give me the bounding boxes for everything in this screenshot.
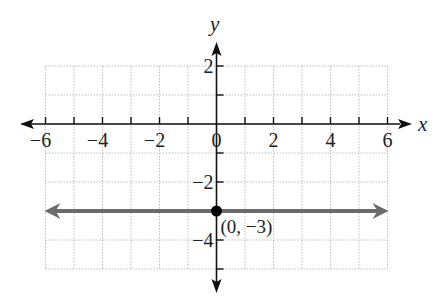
x-tick-label: 0 [212,129,222,151]
coordinate-plane: −6−4−202462−2−4 (0, −3) x y [0,0,444,303]
y-tick-label: −2 [192,171,213,193]
point-label: (0, −3) [221,216,273,238]
x-tick-label: 2 [269,129,279,151]
y-tick-label: 2 [204,55,214,77]
x-tick-label: −2 [144,129,165,151]
point-marker [211,206,222,217]
x-tick-label: −6 [30,129,51,151]
x-tick-label: −4 [87,129,108,151]
x-axis-label: x [417,112,428,136]
x-tick-label: 4 [326,129,336,151]
ticks: −6−4−202462−2−4 [30,55,393,269]
axes [20,42,412,293]
y-axis-label: y [208,12,220,36]
y-tick-label: −4 [192,229,213,251]
x-axis-arrow-right-icon [398,119,412,129]
x-tick-label: 6 [383,129,393,151]
